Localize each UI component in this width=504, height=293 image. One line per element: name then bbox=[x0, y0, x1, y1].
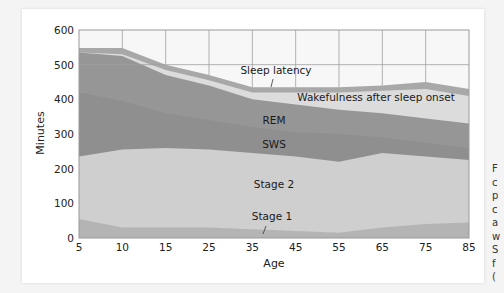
x-tick-label: 55 bbox=[332, 241, 345, 253]
side-caption: F c p c a w S f ( bbox=[492, 162, 504, 284]
x-axis-label: Age bbox=[263, 257, 285, 270]
x-tick-label: 35 bbox=[246, 241, 259, 253]
x-tick-label: 25 bbox=[202, 241, 215, 253]
y-tick-label: 600 bbox=[54, 24, 74, 36]
x-tick-label: 45 bbox=[289, 241, 302, 253]
y-tick-label: 500 bbox=[54, 59, 74, 71]
x-tick-label: 15 bbox=[159, 241, 172, 253]
area-stage-2 bbox=[79, 148, 469, 238]
x-tick-label: 5 bbox=[76, 241, 83, 253]
label-stage1: Stage 1 bbox=[252, 210, 292, 222]
y-tick-label: 0 bbox=[67, 232, 74, 244]
area-layers bbox=[79, 30, 469, 238]
y-axis-ticks: 0100200300400500600 bbox=[54, 24, 74, 244]
x-tick-label: 85 bbox=[462, 241, 475, 253]
label-sws: SWS bbox=[262, 138, 286, 150]
y-tick-label: 400 bbox=[54, 93, 74, 105]
x-tick-label: 10 bbox=[116, 241, 129, 253]
x-tick-label: 65 bbox=[376, 241, 389, 253]
sleep-stages-area-chart: 0100200300400500600 5101525354555657585 … bbox=[0, 0, 504, 293]
y-tick-label: 300 bbox=[54, 128, 74, 140]
x-tick-label: 75 bbox=[419, 241, 432, 253]
label-rem: REM bbox=[263, 114, 286, 126]
label-sleep-latency: Sleep latency bbox=[240, 64, 311, 76]
y-tick-label: 200 bbox=[54, 163, 74, 175]
y-tick-label: 100 bbox=[54, 197, 74, 209]
y-axis-label: Minutes bbox=[34, 111, 47, 155]
label-stage2: Stage 2 bbox=[254, 178, 294, 190]
label-waso: Wakefulness after sleep onset bbox=[297, 91, 455, 103]
x-axis-ticks: 5101525354555657585 bbox=[76, 241, 476, 253]
